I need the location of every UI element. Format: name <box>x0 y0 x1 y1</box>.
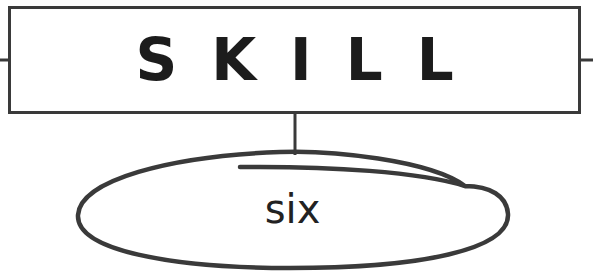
skill-title: SKILL <box>135 26 487 94</box>
skill-box: SKILL <box>8 6 581 114</box>
oval-label: six <box>0 186 585 232</box>
